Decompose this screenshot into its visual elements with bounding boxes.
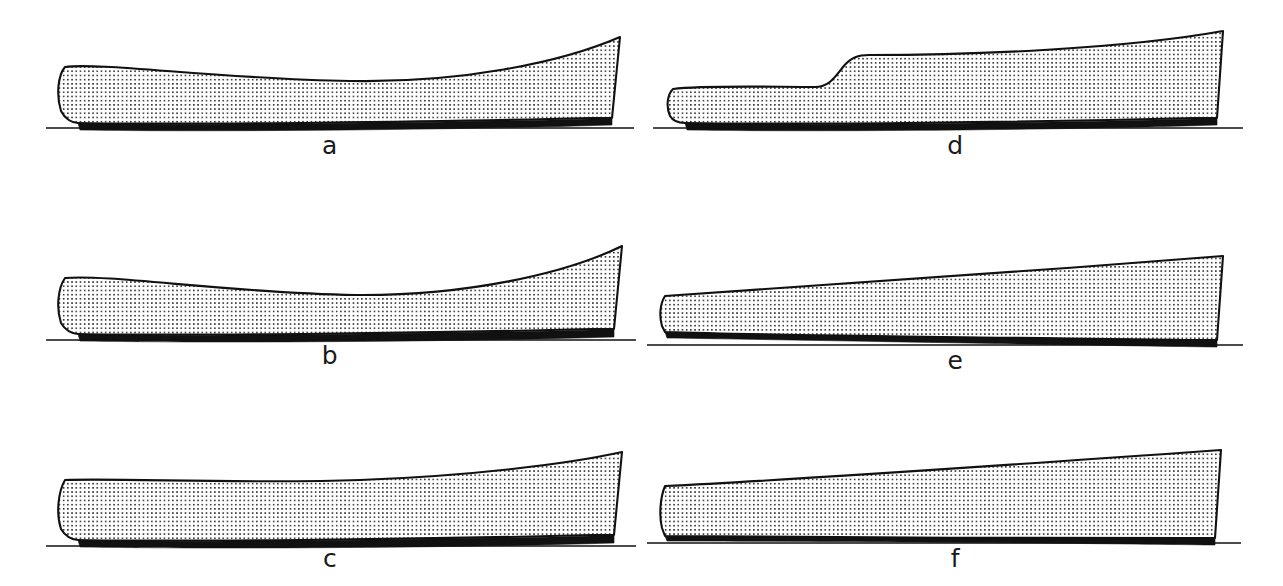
panel-label-b: b (20, 343, 640, 368)
hull-panel-b: b (20, 230, 640, 385)
panel-label-a: a (20, 133, 640, 158)
hull-profile-figure: abcdef (0, 0, 1283, 586)
hull-panel-c: c (20, 440, 640, 586)
hull-panel-e: e (643, 240, 1268, 390)
hull-panel-a: a (20, 15, 640, 175)
panel-label-c: c (20, 546, 640, 571)
panel-label-e: e (643, 348, 1268, 373)
hull-panel-f: f (643, 440, 1268, 586)
hull-panel-d: d (643, 15, 1268, 175)
hull-body-fill-d (668, 31, 1223, 124)
hull-body-fill-e (660, 256, 1223, 340)
hull-body-fill-b (58, 246, 622, 335)
panel-label-d: d (643, 133, 1268, 158)
panel-label-f: f (643, 546, 1268, 571)
hull-body-fill-f (660, 450, 1221, 538)
